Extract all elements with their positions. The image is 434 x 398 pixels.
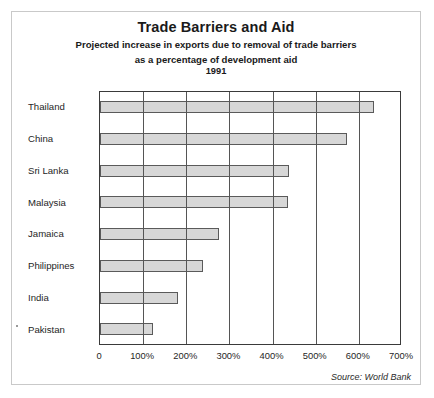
bar-row: [100, 124, 400, 156]
bar-row: [100, 314, 400, 346]
bar-thailand: [100, 101, 374, 113]
x-tick-label-600: 600%: [346, 350, 370, 361]
chart-subtitle-line-2: as a percentage of development aid: [11, 54, 421, 66]
chart-year: 1991: [11, 66, 421, 78]
bar-philippines: [100, 260, 203, 272]
chart-title: Trade Barriers and Aid: [11, 18, 421, 36]
x-tick-label-500: 500%: [303, 350, 327, 361]
gridline-600: [359, 92, 360, 344]
x-tick-label-200: 200%: [173, 350, 197, 361]
bar-series: [100, 92, 400, 344]
value-axis-labels: 0100%200%300%400%500%600%700%: [99, 350, 401, 364]
x-tick-label-100: 100%: [130, 350, 154, 361]
category-label-text: China: [28, 133, 53, 144]
bar-china: [100, 133, 347, 145]
bar-sri-lanka: [100, 165, 289, 177]
bar-row: [100, 251, 400, 283]
category-label-india: India: [14, 282, 90, 314]
category-label-jamaica: Jamaica: [14, 218, 90, 250]
bar-jamaica: [100, 228, 219, 240]
gridline-400: [273, 92, 274, 344]
x-tick-label-700: 700%: [389, 350, 413, 361]
chart-title-block: Trade Barriers and Aid Projected increas…: [11, 18, 421, 78]
category-label-malaysia: Malaysia: [14, 186, 90, 218]
category-label-text: Malaysia: [28, 197, 66, 208]
category-label-sri-lanka: Sri Lanka: [14, 155, 90, 187]
category-label-pakistan: Pakistan: [14, 313, 90, 345]
bar-pakistan: [100, 323, 153, 335]
bar-row: [100, 219, 400, 251]
category-label-philippines: Philippines: [14, 250, 90, 282]
plot-wrapper: [99, 91, 401, 345]
category-label-text: Pakistan: [28, 324, 65, 335]
gridline-100: [143, 92, 144, 344]
gridline-300: [229, 92, 230, 344]
chart-screenshot: Trade Barriers and Aid Projected increas…: [0, 0, 434, 398]
chart-subtitle-line-1: Projected increase in exports due to rem…: [11, 39, 421, 51]
bar-row: [100, 92, 400, 124]
source-note: Source: World Bank: [331, 372, 411, 382]
category-label-china: China: [14, 123, 90, 155]
bar-row: [100, 156, 400, 188]
bar-india: [100, 292, 178, 304]
bar-row: [100, 283, 400, 315]
x-tick-label-0: 0: [96, 350, 101, 361]
gridline-500: [316, 92, 317, 344]
category-label-text: Sri Lanka: [28, 165, 69, 176]
category-label-text: India: [28, 292, 49, 303]
x-tick-label-300: 300%: [216, 350, 240, 361]
category-label-text: Thailand: [28, 101, 65, 112]
plot-area: [99, 91, 401, 345]
category-label-text: Jamaica: [28, 228, 64, 239]
bar-row: [100, 187, 400, 219]
category-axis-labels: ThailandChinaSri LankaMalaysiaJamaicaPhi…: [14, 91, 96, 345]
x-tick-label-400: 400%: [260, 350, 284, 361]
gridline-200: [186, 92, 187, 344]
bar-malaysia: [100, 196, 288, 208]
label-artifact-dot: [16, 325, 18, 327]
category-label-text: Philippines: [28, 260, 74, 271]
category-label-thailand: Thailand: [14, 91, 90, 123]
